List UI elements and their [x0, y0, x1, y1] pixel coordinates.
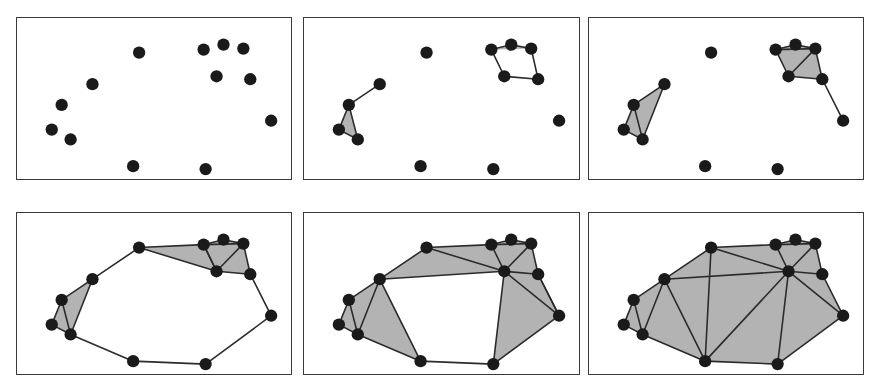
data-point-vertex — [64, 133, 76, 145]
data-point-vertex — [628, 99, 640, 111]
data-point-vertex — [333, 123, 345, 135]
data-point-vertex — [217, 39, 229, 51]
data-point-vertex — [352, 133, 364, 145]
data-point-vertex — [618, 318, 630, 330]
data-point-vertex — [414, 355, 426, 367]
panel-6-canvas — [589, 213, 863, 374]
data-point-vertex — [636, 328, 648, 340]
panel-1-top-left — [16, 17, 292, 180]
data-point-vertex — [244, 268, 256, 280]
panel-1-canvas — [17, 18, 291, 179]
data-point-vertex — [705, 46, 717, 58]
data-point-vertex — [789, 234, 801, 246]
data-point-vertex — [487, 358, 499, 370]
data-point-vertex — [86, 78, 98, 90]
data-point-vertex — [244, 73, 256, 85]
panel-4-bottom-left — [16, 212, 292, 375]
data-point-vertex — [705, 241, 717, 253]
data-point-vertex — [837, 115, 849, 127]
simplex-edge — [421, 361, 494, 364]
data-point-vertex — [769, 43, 781, 55]
data-point-vertex — [816, 73, 828, 85]
data-point-vertex — [237, 42, 249, 54]
data-point-vertex — [699, 160, 711, 172]
panel-2-top-middle — [303, 17, 580, 180]
data-point-vertex — [352, 328, 364, 340]
data-point-vertex — [197, 238, 209, 250]
data-point-vertex — [414, 160, 426, 172]
data-point-vertex — [420, 46, 432, 58]
data-point-vertex — [374, 78, 386, 90]
data-point-vertex — [525, 42, 537, 54]
data-point-vertex — [46, 123, 58, 135]
panel-2-canvas — [304, 18, 579, 179]
data-point-vertex — [618, 123, 630, 135]
data-point-vertex — [56, 294, 68, 306]
data-point-vertex — [487, 163, 499, 175]
data-point-vertex — [265, 115, 277, 127]
data-point-vertex — [771, 163, 783, 175]
data-point-vertex — [771, 358, 783, 370]
data-point-vertex — [636, 133, 648, 145]
data-point-vertex — [374, 273, 386, 285]
data-point-vertex — [532, 268, 544, 280]
data-point-vertex — [553, 115, 565, 127]
data-point-vertex — [498, 265, 510, 277]
simplex-edge — [92, 248, 139, 280]
data-point-vertex — [237, 237, 249, 249]
simplex-edge — [133, 361, 205, 364]
data-point-vertex — [809, 237, 821, 249]
data-point-vertex — [210, 70, 222, 82]
data-point-vertex — [133, 46, 145, 58]
data-point-vertex — [343, 99, 355, 111]
data-point-vertex — [485, 43, 497, 55]
data-point-vertex — [532, 73, 544, 85]
simplex-edge — [250, 274, 271, 315]
data-point-vertex — [127, 160, 139, 172]
data-point-vertex — [199, 358, 211, 370]
data-point-vertex — [265, 310, 277, 322]
data-point-vertex — [505, 39, 517, 51]
panel-5-canvas — [304, 213, 579, 374]
data-point-vertex — [498, 70, 510, 82]
data-point-vertex — [837, 310, 849, 322]
data-point-vertex — [699, 355, 711, 367]
data-point-vertex — [769, 238, 781, 250]
panel-5-bottom-middle — [303, 212, 580, 375]
data-point-vertex — [658, 78, 670, 90]
panel-3-top-right — [588, 17, 864, 180]
data-point-vertex — [56, 99, 68, 111]
simplex-edge — [71, 334, 134, 361]
data-point-vertex — [217, 234, 229, 246]
data-point-vertex — [199, 163, 211, 175]
data-point-vertex — [628, 294, 640, 306]
data-point-vertex — [333, 318, 345, 330]
data-point-vertex — [809, 42, 821, 54]
simplex-edge — [822, 79, 843, 120]
data-point-vertex — [64, 328, 76, 340]
figure-root — [0, 0, 881, 386]
data-point-vertex — [343, 294, 355, 306]
panel-3-canvas — [589, 18, 863, 179]
data-point-vertex — [553, 310, 565, 322]
data-point-vertex — [46, 318, 58, 330]
data-point-vertex — [525, 237, 537, 249]
data-point-vertex — [127, 355, 139, 367]
data-point-vertex — [505, 234, 517, 246]
data-point-vertex — [789, 39, 801, 51]
data-point-vertex — [658, 273, 670, 285]
data-point-vertex — [133, 241, 145, 253]
simplex-edge — [206, 316, 272, 364]
data-point-vertex — [420, 241, 432, 253]
panel-6-bottom-right — [588, 212, 864, 375]
data-point-vertex — [210, 265, 222, 277]
data-point-vertex — [86, 273, 98, 285]
data-point-vertex — [485, 238, 497, 250]
data-point-vertex — [197, 43, 209, 55]
panel-4-canvas — [17, 213, 291, 374]
data-point-vertex — [816, 268, 828, 280]
data-point-vertex — [782, 265, 794, 277]
data-point-vertex — [782, 70, 794, 82]
